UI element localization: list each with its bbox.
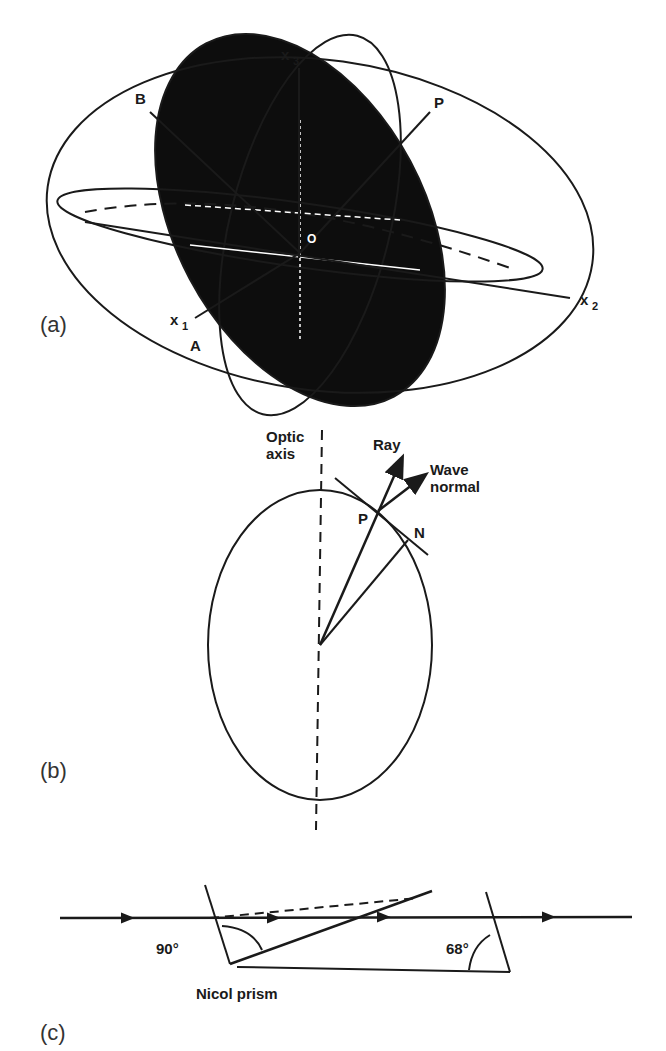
point-b-label: B — [135, 90, 146, 107]
figure-canvas: x 3 B P x 1 A O x 2 (a) Optic axis Ray W… — [0, 0, 666, 1051]
optic-axis-label-2: axis — [266, 445, 295, 462]
x3-subscript: 3 — [293, 55, 299, 67]
wave-normal-label-2: normal — [430, 478, 480, 495]
beam-arrow-2 — [268, 914, 278, 922]
angle-68-label: 68° — [446, 940, 469, 957]
wave-normal-label-1: Wave — [430, 461, 469, 478]
ray-label: Ray — [373, 436, 401, 453]
wave-normal-vector — [378, 475, 425, 511]
ray-vector — [320, 458, 402, 645]
panel-b-label: (b) — [40, 758, 67, 783]
panel-c-nicol-prism — [60, 885, 632, 972]
tangent-line — [335, 478, 428, 555]
angle-arc-68 — [469, 935, 490, 970]
panel-b-ray-diagram — [208, 430, 432, 830]
prism-left-face — [205, 885, 230, 964]
beam-arrow-3 — [378, 913, 388, 921]
angle-90-label: 90° — [156, 940, 179, 957]
nicol-prism-caption: Nicol prism — [196, 985, 278, 1002]
x2-label: x — [580, 291, 589, 308]
prism-right-face — [486, 892, 510, 972]
x3-label: x — [281, 46, 290, 63]
normal-line — [320, 540, 408, 645]
point-a-label: A — [190, 337, 201, 354]
angle-arc-90 — [222, 926, 262, 950]
origin-label: O — [307, 232, 316, 246]
point-p-label-b: P — [358, 510, 368, 527]
optic-axis-label-1: Optic — [266, 428, 304, 445]
point-n-label: N — [414, 524, 425, 541]
panel-a-label: (a) — [40, 312, 67, 337]
panel-c-label: (c) — [40, 1020, 66, 1045]
panel-a-index-ellipsoid — [25, 0, 616, 455]
x2-subscript: 2 — [592, 300, 598, 312]
x1-subscript: 1 — [182, 320, 188, 332]
cement-layer — [230, 891, 432, 964]
beam-arrow-4 — [543, 913, 553, 921]
beam-arrow-1 — [122, 914, 132, 922]
x1-label: x — [170, 311, 179, 328]
point-p-label: P — [434, 94, 444, 111]
